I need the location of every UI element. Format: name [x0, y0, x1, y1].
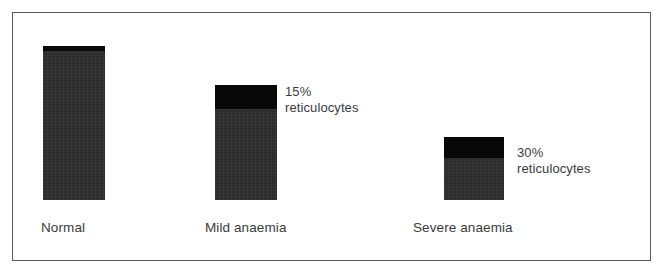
- callout-mild-anaemia-term: reticulocytes: [285, 100, 359, 116]
- callout-mild-anaemia-percent: 15%: [285, 84, 359, 100]
- bar-mild-anaemia-mature-segment: [215, 109, 277, 200]
- callout-severe-anaemia-percent: 30%: [517, 145, 591, 161]
- bar-mild-anaemia: [215, 85, 277, 200]
- bar-normal-mature-segment: [43, 51, 105, 200]
- category-label-normal: Normal: [41, 220, 85, 236]
- bar-normal: [43, 46, 105, 200]
- figure-root: Normal Mild anaemia Severe anaemia 15% r…: [0, 0, 663, 273]
- category-label-mild-anaemia: Mild anaemia: [205, 220, 287, 236]
- callout-mild-anaemia: 15% reticulocytes: [285, 84, 359, 116]
- bar-mild-anaemia-reticulocyte-segment: [215, 85, 277, 109]
- plot-area: Normal Mild anaemia Severe anaemia 15% r…: [0, 0, 663, 273]
- callout-severe-anaemia: 30% reticulocytes: [517, 145, 591, 177]
- bar-severe-anaemia: [444, 137, 504, 200]
- bar-severe-anaemia-reticulocyte-segment: [444, 137, 504, 158]
- bar-severe-anaemia-mature-segment: [444, 158, 504, 200]
- category-label-severe-anaemia: Severe anaemia: [413, 220, 513, 236]
- callout-severe-anaemia-term: reticulocytes: [517, 161, 591, 177]
